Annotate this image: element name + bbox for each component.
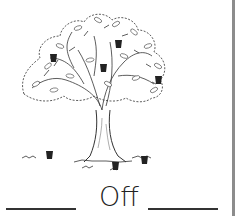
right-border [232, 0, 235, 216]
blank-line-right[interactable] [148, 208, 218, 210]
apple-icons [46, 40, 162, 170]
blank-line-left[interactable] [6, 208, 76, 210]
apple-tree-illustration [14, 6, 174, 172]
word-row: Off [0, 184, 232, 214]
worksheet-card: Off [0, 0, 233, 216]
worksheet-word: Off [99, 181, 139, 212]
